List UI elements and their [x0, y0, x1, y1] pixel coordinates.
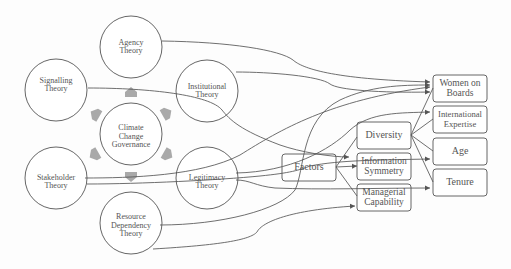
box-factors: [282, 154, 336, 181]
arrow-upper-right-icon: [160, 105, 175, 120]
box-information-symmetry: [357, 153, 411, 180]
box-tenure: [433, 169, 487, 196]
arrow-lower-right-icon: [161, 147, 176, 162]
box-international-expertise: [433, 106, 487, 133]
box-age: [433, 138, 487, 165]
node-legitimacy-theory: [176, 147, 238, 209]
diagram-canvas: [0, 0, 511, 269]
node-institutional-theory: [176, 60, 238, 122]
theoretical-framework-diagram: Agency Theory Signalling Theory Institut…: [0, 0, 511, 269]
node-resource-dependency-theory: [100, 192, 162, 254]
node-stakeholder-theory: [25, 147, 87, 209]
node-climate-change-governance: [100, 103, 162, 165]
box-diversity: [357, 122, 411, 149]
arrow-upper-left-icon: [88, 106, 103, 121]
arrow-lower-left-icon: [87, 147, 102, 162]
node-agency-theory: [100, 16, 162, 78]
node-signalling-theory: [25, 59, 87, 121]
box-women-on-boards: [433, 75, 487, 102]
